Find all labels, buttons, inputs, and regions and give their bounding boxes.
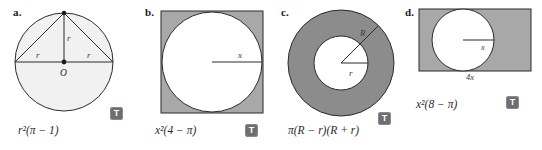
panel-b-diagram: x	[160, 10, 264, 118]
panel-c-diagram: R r	[286, 8, 396, 122]
panel-d-diagram: x 4x	[418, 8, 534, 84]
label-radius-right: r	[87, 50, 91, 60]
panel-a-diagram: r r r O	[8, 8, 120, 117]
label-inner-radius-r: r	[349, 68, 353, 78]
panel-b-letter: b.	[145, 6, 154, 18]
tools-badge-d[interactable]: T	[506, 96, 519, 109]
figure-panel-a: a. r r r O T r²(π − 1)	[0, 0, 130, 150]
figure-sheet: a. r r r O T r²(π − 1)	[0, 0, 542, 150]
panel-c-formula: π(R − r)(R + r)	[288, 124, 359, 136]
panel-d-formula: x²(8 − π)	[416, 98, 457, 110]
label-outer-radius-R: R	[359, 28, 366, 38]
label-radius-vertical: r	[67, 33, 71, 43]
tools-badge-a[interactable]: T	[110, 107, 123, 120]
figure-panel-d: d. x 4x T x²(8 − π)	[402, 0, 542, 150]
label-radius-left: r	[36, 50, 40, 60]
center-point	[62, 60, 67, 65]
figure-panel-c: c. R r T π(R − r)(R + r)	[268, 0, 398, 150]
panel-d-letter: d.	[405, 6, 414, 18]
label-center-O: O	[60, 68, 67, 78]
panel-a-formula: r²(π − 1)	[18, 124, 59, 136]
panel-b-formula: x²(4 − π)	[155, 124, 196, 136]
tools-badge-c[interactable]: T	[378, 112, 391, 125]
apex-point	[62, 11, 66, 15]
tools-badge-b[interactable]: T	[245, 124, 258, 137]
label-radius-x: x	[237, 50, 242, 60]
label-radius-x: x	[480, 42, 485, 52]
figure-panel-b: b. x T x²(4 − π)	[135, 0, 265, 150]
label-base-4x: 4x	[466, 72, 474, 80]
